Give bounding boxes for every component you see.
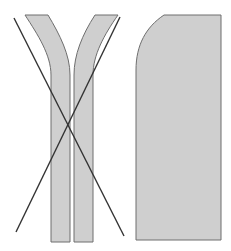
panel bbox=[136, 15, 221, 240]
diagram-canvas bbox=[0, 0, 231, 251]
